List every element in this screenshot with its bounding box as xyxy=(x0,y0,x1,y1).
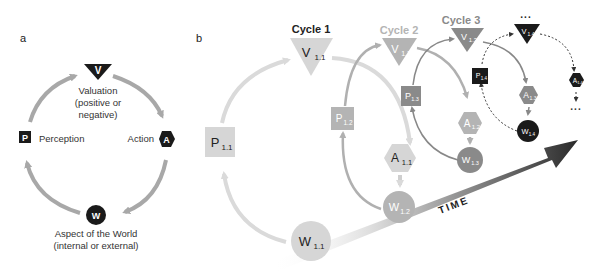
arrow-world-to-perception xyxy=(27,163,80,213)
svg-text:1.3: 1.3 xyxy=(469,37,478,43)
svg-text:1.4: 1.4 xyxy=(529,132,536,137)
svg-text:W: W xyxy=(92,211,101,221)
svg-text:W: W xyxy=(462,155,471,165)
cycle-1-title: Cycle 1 xyxy=(292,23,331,35)
svg-text:1.1: 1.1 xyxy=(314,53,326,62)
v14-node: V 1.4 xyxy=(514,24,540,44)
w12-node: W 1.2 xyxy=(383,191,415,223)
a13-node: A 1.3 xyxy=(519,86,538,104)
svg-text:W: W xyxy=(299,234,312,249)
a12-node: A 1.2 xyxy=(458,112,482,134)
arrow-valuation-to-action xyxy=(113,76,162,116)
arrow-v14-to-a14 xyxy=(540,34,574,70)
svg-text:1.3: 1.3 xyxy=(471,160,479,166)
cycle-4-title: ... xyxy=(520,9,531,20)
a11-node: A 1.1 xyxy=(384,144,416,172)
arrow-v12-to-a12 xyxy=(417,48,467,97)
svg-text:1.3: 1.3 xyxy=(411,96,419,102)
cycle-2-title: Cycle 2 xyxy=(380,24,419,36)
panel-a-label: a xyxy=(20,32,27,44)
svg-text:P: P xyxy=(336,113,343,124)
svg-text:V: V xyxy=(461,32,467,42)
valuation-node: V Valuation (positive or negative) xyxy=(75,64,121,120)
p12-node: P 1.2 xyxy=(331,107,354,130)
cycle-4: ... V 1.4 P 1.4 W 1.4 A 1.4 ... xyxy=(472,9,584,142)
svg-text:P: P xyxy=(211,135,220,150)
arrow-action-to-world xyxy=(125,160,166,212)
arrow-v11-to-a11 xyxy=(332,58,410,143)
perception-node: P Perception xyxy=(19,131,84,144)
w11-node: W 1.1 xyxy=(291,221,331,261)
svg-text:W: W xyxy=(389,201,400,213)
svg-text:(internal or external): (internal or external) xyxy=(53,240,138,251)
arrow-a13-to-w14 xyxy=(528,107,529,114)
arrow-p11-to-v11 xyxy=(222,60,288,123)
v12-node: V 1.2 xyxy=(382,38,417,66)
svg-text:Perception: Perception xyxy=(39,133,84,144)
svg-text:1.4: 1.4 xyxy=(528,31,535,37)
triangle-icon xyxy=(382,38,417,66)
svg-text:Aspect of the World: Aspect of the World xyxy=(55,228,138,239)
svg-text:1.4: 1.4 xyxy=(577,80,583,85)
a14-node: A 1.4 xyxy=(569,73,584,87)
svg-text:1.2: 1.2 xyxy=(343,119,352,126)
cycle-3: Cycle 3 V 1.3 P 1.3 W 1.3 A 1.3 xyxy=(401,14,538,173)
figure: a V Valuation (positive or negative) P P… xyxy=(0,0,611,271)
arrow-w11-to-p11 xyxy=(224,174,286,242)
svg-text:1.1: 1.1 xyxy=(221,143,233,152)
svg-text:P: P xyxy=(22,133,28,143)
p14-node: P 1.4 xyxy=(472,68,488,84)
svg-text:1.2: 1.2 xyxy=(472,124,481,130)
arrow-p14-to-v14 xyxy=(482,34,512,64)
p11-node: P 1.1 xyxy=(205,127,235,157)
svg-text:1.2: 1.2 xyxy=(400,208,410,215)
p13-node: P 1.3 xyxy=(401,86,421,106)
v11-node: V 1.1 xyxy=(290,38,333,76)
panel-b-label: b xyxy=(196,32,202,44)
svg-text:(positive or: (positive or xyxy=(75,97,121,108)
svg-text:A: A xyxy=(464,118,471,129)
svg-text:V: V xyxy=(391,43,399,55)
svg-text:1.2: 1.2 xyxy=(401,50,411,57)
w13-node: W 1.3 xyxy=(457,147,483,173)
w14-node: W 1.4 xyxy=(517,120,539,142)
svg-text:V: V xyxy=(95,65,102,76)
cycle-3-title: Cycle 3 xyxy=(442,14,481,26)
action-node: A Action xyxy=(128,131,175,147)
svg-text:1.1: 1.1 xyxy=(313,242,325,251)
v13-node: V 1.3 xyxy=(451,28,484,52)
svg-text:V: V xyxy=(521,27,526,36)
arrow-v13-to-a13 xyxy=(483,42,526,82)
arrow-w12-to-p12 xyxy=(343,133,381,209)
svg-text:1.1: 1.1 xyxy=(402,158,412,167)
arrow-p12-to-v12 xyxy=(345,45,380,106)
svg-text:1.3: 1.3 xyxy=(530,95,537,101)
arrow-w13-to-p13 xyxy=(412,108,458,160)
triangle-icon xyxy=(451,28,484,52)
arrow-w14-to-p14 xyxy=(481,84,517,131)
svg-text:A: A xyxy=(163,135,170,145)
svg-text:V: V xyxy=(302,45,311,60)
svg-text:A: A xyxy=(523,90,529,100)
continuation-ellipsis: ... xyxy=(570,101,581,112)
svg-text:A: A xyxy=(391,151,399,165)
svg-text:1.4: 1.4 xyxy=(481,76,488,81)
panel-a: a V Valuation (positive or negative) P P… xyxy=(19,32,175,251)
square-icon xyxy=(205,127,235,157)
panel-b: b TIME Cycle 1 V 1.1 P 1.1 W xyxy=(196,9,584,271)
svg-text:Action: Action xyxy=(128,133,154,144)
svg-text:negative): negative) xyxy=(78,109,117,120)
triangle-icon xyxy=(290,38,333,76)
svg-text:Valuation: Valuation xyxy=(79,85,118,96)
arrow-perception-to-valuation xyxy=(30,76,75,122)
svg-text:P: P xyxy=(405,91,411,101)
